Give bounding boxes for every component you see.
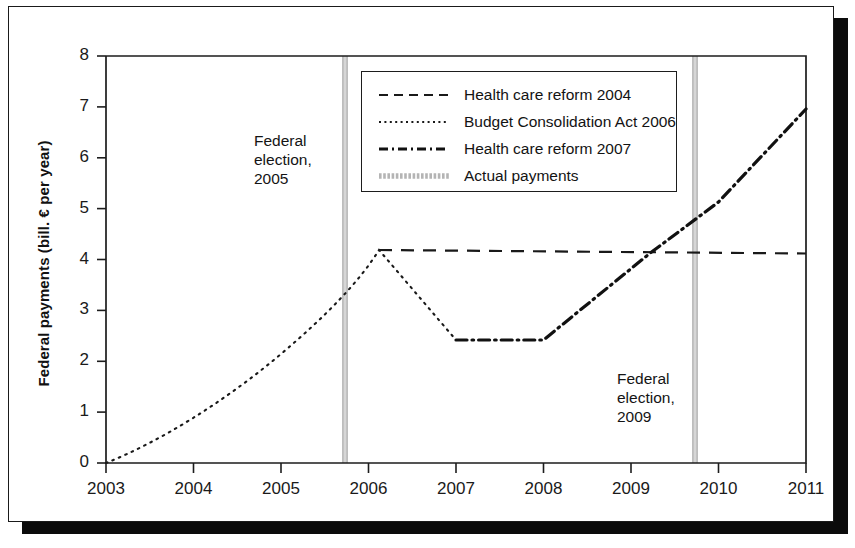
series-budget-consolidation-act-2006: [106, 250, 456, 463]
chart-legend: Health care reform 2004 Budget Consolida…: [361, 71, 677, 192]
legend-label-0: Health care reform 2004: [464, 86, 631, 104]
y-tick-label-7: 7: [67, 96, 89, 116]
legend-swatch-actual-payments-icon: [378, 167, 450, 185]
annotation-2009-line-1: Federal: [617, 369, 675, 388]
x-tick-label-2004: 2004: [159, 479, 229, 499]
legend-label-3: Actual payments: [464, 167, 579, 185]
x-axis-ticks: [106, 463, 806, 473]
y-tick-label-6: 6: [67, 147, 89, 167]
x-tick-label-2011: 2011: [771, 479, 841, 499]
legend-swatch-dashdot-icon: [378, 140, 450, 158]
legend-item-health-care-reform-2004: Health care reform 2004: [362, 81, 676, 108]
legend-item-budget-consolidation-act-2006: Budget Consolidation Act 2006: [362, 108, 676, 135]
annotation-federal-election-2005: Federal election, 2005: [254, 131, 312, 188]
x-tick-label-2006: 2006: [334, 479, 404, 499]
x-tick-label-2007: 2007: [421, 479, 491, 499]
legend-item-health-care-reform-2007: Health care reform 2007: [362, 135, 676, 162]
annotation-2009-line-3: 2009: [617, 407, 675, 426]
x-tick-label-2008: 2008: [509, 479, 579, 499]
chart-card: Federal payments (bill. € per year) 8 7 …: [8, 6, 834, 522]
figure-root: Federal payments (bill. € per year) 8 7 …: [0, 0, 855, 548]
legend-swatch-dotted-icon: [378, 113, 450, 131]
y-tick-label-2: 2: [67, 350, 89, 370]
y-tick-label-8: 8: [67, 45, 89, 65]
legend-swatch-dashed-icon: [378, 86, 450, 104]
y-tick-label-5: 5: [67, 198, 89, 218]
annotation-2005-line-3: 2005: [254, 169, 312, 188]
legend-item-actual-payments: Actual payments: [362, 162, 676, 189]
annotation-2009-line-2: election,: [617, 388, 675, 407]
y-axis-title: Federal payments (bill. € per year): [35, 54, 52, 474]
y-tick-label-1: 1: [67, 401, 89, 421]
series-health-care-reform-2004: [379, 250, 806, 254]
x-tick-label-2009: 2009: [596, 479, 666, 499]
annotation-federal-election-2009: Federal election, 2009: [617, 369, 675, 426]
x-tick-label-2010: 2010: [684, 479, 754, 499]
x-tick-label-2003: 2003: [71, 479, 141, 499]
y-tick-label-3: 3: [67, 299, 89, 319]
legend-label-1: Budget Consolidation Act 2006: [464, 113, 676, 131]
y-tick-label-4: 4: [67, 249, 89, 269]
y-tick-label-0: 0: [67, 452, 89, 472]
annotation-2005-line-2: election,: [254, 150, 312, 169]
y-axis-ticks: [97, 56, 106, 463]
annotation-2005-line-1: Federal: [254, 131, 312, 150]
x-tick-label-2005: 2005: [246, 479, 316, 499]
legend-label-2: Health care reform 2007: [464, 140, 631, 158]
